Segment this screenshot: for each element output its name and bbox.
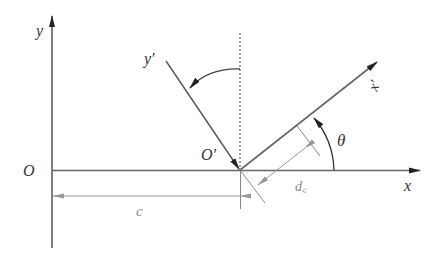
- origin-prime-label: O′: [201, 146, 217, 163]
- origin-label: O: [23, 162, 35, 179]
- x-prime-axis: [240, 62, 377, 170]
- y-axis-label: y: [34, 22, 44, 40]
- y-prime-axis-label: y′: [142, 50, 155, 68]
- dc-extension-line-lower: [240, 170, 265, 203]
- theta-label: θ: [337, 131, 345, 150]
- rotation-arc-y: [190, 69, 240, 88]
- dc-dimension-label: d꜀: [295, 179, 307, 194]
- theta-arc: [314, 118, 334, 170]
- coordinate-diagram: y x O O′ y′ x′ θ c d꜀: [0, 0, 439, 270]
- x-prime-axis-label: x′: [364, 78, 383, 94]
- x-axis-label: x: [403, 177, 411, 194]
- c-dimension-label: c: [136, 203, 143, 219]
